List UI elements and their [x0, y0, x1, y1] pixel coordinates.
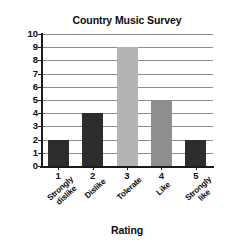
bar	[117, 47, 138, 166]
y-tick-label: 5	[22, 95, 38, 105]
y-tick-label: 8	[22, 55, 38, 65]
bar	[151, 100, 172, 166]
bar	[82, 113, 103, 166]
y-tick-label: 10	[22, 29, 38, 39]
y-tick-label: 9	[22, 42, 38, 52]
x-axis-title: Rating	[41, 224, 213, 236]
y-tick-label: 7	[22, 69, 38, 79]
bar	[185, 140, 206, 166]
bar-chart: Country Music Survey Frequency 012345678…	[0, 0, 227, 244]
chart-title: Country Music Survey	[41, 14, 213, 26]
plot-area	[41, 34, 213, 166]
bar	[48, 140, 69, 166]
y-axis-line	[41, 33, 43, 167]
y-tick-label: 0	[22, 161, 38, 171]
y-tick-label: 2	[22, 135, 38, 145]
x-axis-category-labels: Strongly dislikeDislikeTolerateLikeStron…	[41, 186, 213, 226]
y-tick-label: 1	[22, 148, 38, 158]
gridline	[41, 34, 213, 35]
y-tick-label: 6	[22, 82, 38, 92]
y-tick-label: 4	[22, 108, 38, 118]
y-axis-tick-labels: 012345678910	[20, 34, 38, 166]
y-tick-label: 3	[22, 121, 38, 131]
